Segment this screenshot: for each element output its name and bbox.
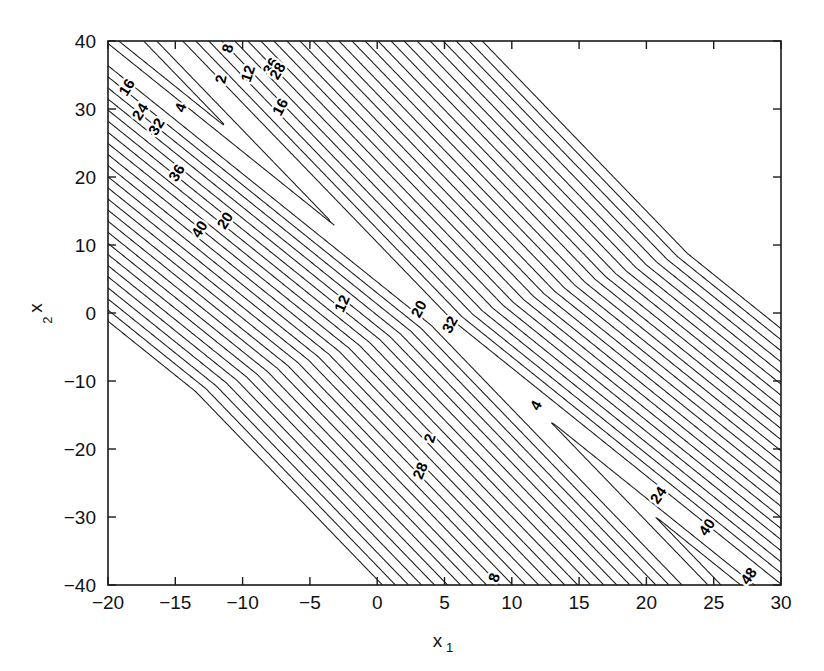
x-tick-label: 20 xyxy=(636,592,657,613)
x-tick-label: 15 xyxy=(569,592,590,613)
x-axis-title: x xyxy=(433,630,443,651)
y-tick-label: −30 xyxy=(64,507,96,528)
x-tick-label: −5 xyxy=(299,592,321,613)
y-tick-label: −10 xyxy=(64,371,96,392)
x-tick-label: 5 xyxy=(439,592,450,613)
x-tick-label: −15 xyxy=(159,592,191,613)
x-tick-label: 30 xyxy=(770,592,791,613)
x-tick-label: 10 xyxy=(501,592,522,613)
x-tick-label: 0 xyxy=(372,592,383,613)
x-tick-label: 25 xyxy=(703,592,724,613)
x-tick-label: −10 xyxy=(226,592,258,613)
y-tick-label: 30 xyxy=(75,99,96,120)
x-axis-title-subscript: 1 xyxy=(446,640,453,655)
y-tick-label: 0 xyxy=(85,303,96,324)
contour-plot-figure: −20−15−10−5051015202530 −40−30−20−100102… xyxy=(0,0,824,671)
contour-plot-svg: −20−15−10−5051015202530 −40−30−20−100102… xyxy=(0,0,824,671)
y-tick-label: 10 xyxy=(75,235,96,256)
y-tick-label: −40 xyxy=(64,575,96,596)
y-tick-label: 40 xyxy=(75,31,96,52)
y-axis-title-subscript: 2 xyxy=(40,316,55,323)
x-tick-label: −20 xyxy=(92,592,124,613)
y-tick-label: 20 xyxy=(75,167,96,188)
y-tick-label: −20 xyxy=(64,439,96,460)
y-axis-title: x xyxy=(25,303,46,313)
